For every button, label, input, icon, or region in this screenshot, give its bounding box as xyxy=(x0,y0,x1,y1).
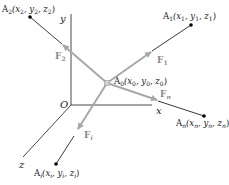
force-label-fi: Fi xyxy=(84,130,93,141)
point-ai-label: Ai(xi, yi, zi) xyxy=(33,168,79,179)
x-axis-label: x xyxy=(156,105,162,116)
force-arrow-f2 xyxy=(63,45,107,83)
force-label-f1: F1 xyxy=(157,55,168,66)
force-diagram: y x z O A2(x2, y2, z2) A1(x1, y1, z1) A0… xyxy=(0,0,229,185)
point-a1-label: A1(x1, y1, z1) xyxy=(162,11,216,22)
z-axis-label: z xyxy=(18,159,25,170)
line-to-a1 xyxy=(152,25,191,51)
point-a1-dot xyxy=(189,23,193,27)
point-a0-label: A0(x0, y0, z0) xyxy=(113,76,167,87)
position-lines xyxy=(30,17,204,164)
point-a2-dot xyxy=(28,15,32,19)
force-label-fn: Fn xyxy=(160,89,171,100)
z-axis xyxy=(23,105,71,157)
point-an-label: An(xn, yn, zn) xyxy=(175,118,229,129)
line-to-ai xyxy=(56,136,74,164)
origin-label: O xyxy=(60,99,68,110)
line-to-an xyxy=(158,101,204,116)
force-label-f2: F2 xyxy=(55,51,66,62)
force-arrows xyxy=(63,45,157,129)
force-arrow-fi xyxy=(78,83,107,129)
y-axis-label: y xyxy=(59,13,66,24)
point-a2-label: A2(x2, y2, z2) xyxy=(1,4,55,15)
line-to-a2 xyxy=(30,17,62,44)
point-ai-dot xyxy=(54,162,58,166)
center-point-a0 xyxy=(105,81,110,86)
